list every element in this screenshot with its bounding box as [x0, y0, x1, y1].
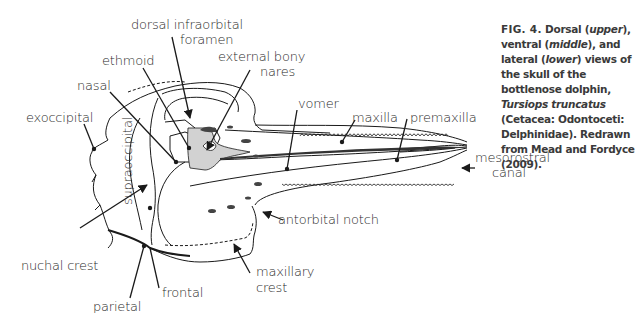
label-supraoccipital: supraoccipital	[120, 117, 135, 205]
caption-italic: lower	[545, 53, 576, 65]
label-antorbital-notch: antorbital notch	[278, 212, 379, 227]
label-ethmoid: ethmoid	[102, 53, 154, 68]
caption-species: Tursiops truncatus	[501, 98, 606, 110]
skull-diagram: dorsal infraorbital foramen ethmoid exte…	[0, 0, 643, 323]
label-external-bony-nares-line2: nares	[260, 64, 295, 79]
label-external-bony-nares-line1: external bony	[218, 49, 305, 64]
label-parietal: parietal	[93, 299, 141, 314]
label-frontal: frontal	[162, 285, 203, 300]
label-nasal: nasal	[77, 78, 111, 93]
label-dorsal-infraorbital-foramen-line2: foramen	[180, 32, 233, 47]
caption-italic: middle	[549, 38, 588, 50]
label-maxillary-crest-line1: maxillary	[256, 264, 314, 279]
caption-text: Dorsal (	[542, 23, 589, 35]
external-nares-shaded	[188, 128, 250, 170]
skull-outline	[90, 81, 467, 262]
label-maxilla: maxilla	[352, 110, 398, 125]
label-vomer: vomer	[298, 96, 339, 111]
label-exoccipital: exoccipital	[26, 110, 93, 125]
lower-teeth	[282, 184, 454, 186]
label-dorsal-infraorbital-foramen-line1: dorsal infraorbital	[131, 17, 243, 32]
label-maxillary-crest-line2: crest	[256, 280, 287, 295]
caption-italic: upper	[589, 23, 622, 35]
caption-figure-number: FIG. 4.	[501, 23, 542, 35]
caption-text: (Cetacea: Odontoceti: Delphinidae). Redr…	[501, 113, 635, 170]
label-premaxilla: premaxilla	[410, 110, 476, 125]
label-nuchal-crest: nuchal crest	[21, 258, 98, 273]
figure-caption: FIG. 4. Dorsal (upper), ventral (middle)…	[501, 22, 643, 172]
